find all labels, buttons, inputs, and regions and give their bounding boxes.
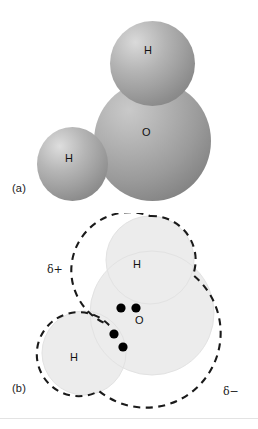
bottom-divider — [0, 418, 258, 419]
water-molecule-figure: H O H (a) — [0, 0, 258, 429]
hydrogen-sphere-left — [37, 127, 108, 201]
hydrogen-sphere-top — [110, 21, 195, 106]
panel-label-a: (a) — [12, 182, 26, 194]
panel-a-space-filling-model: H O H (a) — [0, 0, 258, 215]
electron-dot-lower-lower — [118, 342, 127, 351]
panel-label-b: (b) — [12, 382, 26, 394]
partial-charge-negative-label: δ− — [223, 385, 239, 398]
electron-dot-upper-left — [116, 303, 125, 312]
electron-dot-upper-right — [131, 303, 140, 312]
charge-cloud-diagram — [0, 213, 258, 423]
panel-b-charge-distribution: H O H δ+ δ− (b) — [0, 213, 258, 423]
molecule-silhouette — [42, 216, 214, 395]
partial-charge-positive-label: δ+ — [47, 263, 63, 276]
electron-dot-lower-upper — [109, 329, 118, 338]
